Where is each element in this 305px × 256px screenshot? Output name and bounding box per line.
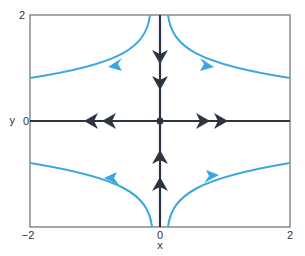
x-axis-label: x bbox=[157, 239, 163, 251]
y-tick-zero: 0 bbox=[23, 115, 29, 127]
trajectory-upper-left bbox=[30, 15, 150, 78]
trajectory-lower-left bbox=[30, 163, 152, 227]
x-tick-right: 2 bbox=[287, 229, 293, 241]
fixed-point bbox=[157, 118, 164, 125]
x-tick-left: −2 bbox=[22, 229, 35, 241]
y-tick-top: 2 bbox=[19, 9, 25, 21]
y-axis-label: y bbox=[10, 114, 16, 126]
trajectory-lower-right bbox=[168, 163, 290, 227]
trajectory-upper-right bbox=[168, 15, 290, 78]
phase-portrait: 2 0 y −2 0 2 x bbox=[0, 0, 305, 256]
